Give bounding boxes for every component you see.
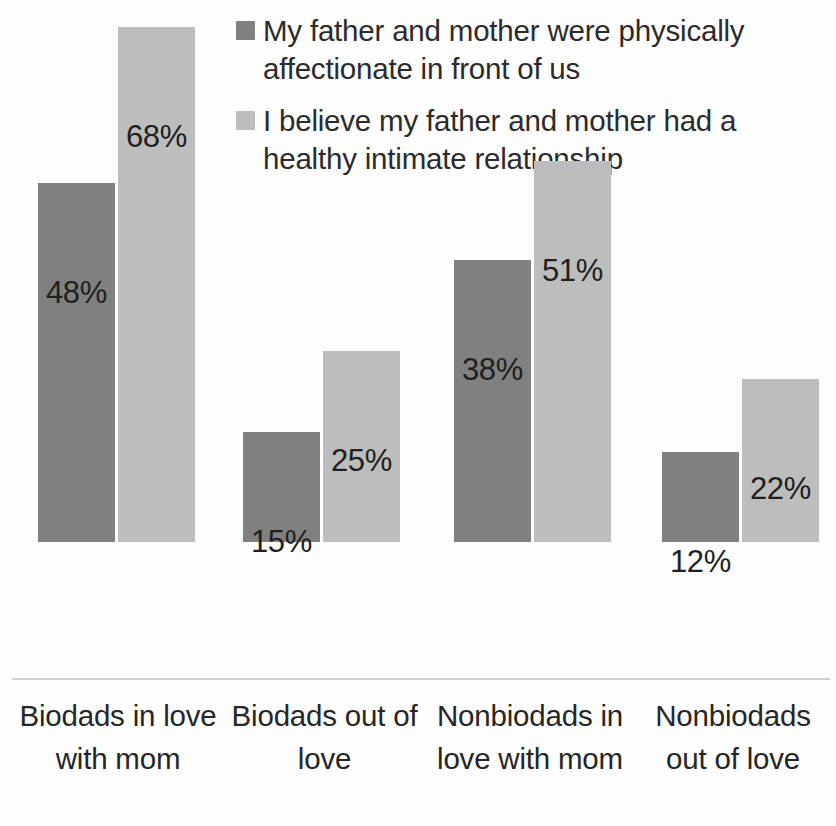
bar-value-label-68: 68% bbox=[118, 121, 195, 152]
bar-value-label-22: 22% bbox=[742, 473, 819, 504]
bar-value-label-38: 38% bbox=[454, 354, 531, 385]
plot-area: 48% 68% 15% 25% 38% 51% 12% 22% bbox=[0, 0, 836, 690]
bar-group-4-series-1 bbox=[662, 452, 739, 542]
bar-value-label-51: 51% bbox=[534, 255, 611, 286]
bar-group-3-series-1 bbox=[454, 260, 531, 542]
bar-value-label-15: 15% bbox=[243, 526, 320, 557]
category-label-biodads-out-of-love: Biodads out of love bbox=[222, 694, 427, 780]
bar-value-label-25: 25% bbox=[323, 445, 400, 476]
bar-group-3-series-2 bbox=[534, 161, 611, 542]
category-label-biodads-in-love-with-mom: Biodads in love with mom bbox=[18, 694, 218, 780]
bar-group-1-series-1 bbox=[38, 183, 115, 542]
bar-group-4-series-2 bbox=[742, 379, 819, 542]
bar-value-label-48: 48% bbox=[38, 277, 115, 308]
x-axis-category-labels: Biodads in love with mom Biodads out of … bbox=[0, 694, 836, 826]
bar-group-1-series-2 bbox=[118, 27, 195, 542]
x-axis-line bbox=[12, 678, 830, 680]
bar-value-label-12: 12% bbox=[662, 546, 739, 577]
bar-chart: My father and mother were physically aff… bbox=[0, 0, 836, 826]
category-label-nonbiodads-in-love-with-mom: Nonbiodads in love with mom bbox=[432, 694, 628, 780]
category-label-nonbiodads-out-of-love: Nonbiodads out of love bbox=[640, 694, 826, 780]
